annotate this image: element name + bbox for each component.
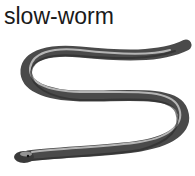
eye-icon [27, 155, 29, 157]
slow-worm-illustration [0, 0, 195, 176]
snake-body [26, 45, 186, 160]
snake-head [14, 151, 34, 163]
